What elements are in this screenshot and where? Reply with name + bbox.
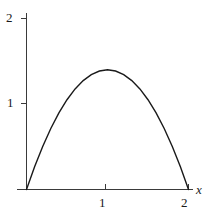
y-tick-label-1: 1 (7, 96, 14, 109)
x-axis-label: x (196, 183, 202, 196)
plot-canvas (0, 0, 209, 217)
chart-figure: 2 1 1 2 x (0, 0, 209, 217)
y-tick-label-2: 2 (6, 11, 13, 24)
x-tick-label-1: 1 (99, 196, 106, 209)
parabola-curve (27, 70, 189, 190)
x-tick-label-2: 2 (181, 196, 188, 209)
